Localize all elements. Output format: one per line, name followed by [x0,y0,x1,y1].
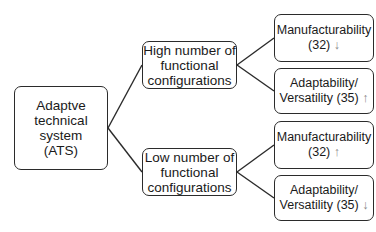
leaf-node-high-manufacturability: Manufacturability (32) ↓ [274,14,374,62]
low-line-2: functional [145,165,234,180]
high-line-1: High number of [143,43,235,58]
arrow-up-icon: ↑ [362,91,368,105]
leaf3-line-2: (32) [308,145,330,159]
branch-node-low: Low number of functional configurations [142,148,237,196]
high-line-3: configurations [143,73,235,88]
connector-root-to-high [108,65,142,128]
root-line-1: Adaptve [34,98,87,113]
root-line-3: system [34,128,87,143]
root-line-2: technical [34,113,87,128]
connector-high-to-leaf2 [237,65,274,91]
connector-high-to-leaf1 [237,38,274,65]
branch-node-high: High number of functional configurations [142,41,237,89]
connector-low-to-leaf4 [237,172,274,198]
leaf3-line-1: Manufacturability [277,130,372,145]
leaf2-line-2: Versatility (35) [280,91,359,105]
leaf1-line-2: (32) [308,38,330,52]
leaf-node-low-manufacturability: Manufacturability (32) ↑ [274,121,374,169]
low-line-1: Low number of [145,150,234,165]
arrow-down-icon: ↓ [362,198,368,212]
low-line-3: configurations [145,180,234,195]
root-node-ats: Adaptve technical system (ATS) [14,86,108,170]
arrow-up-icon: ↑ [334,145,340,159]
leaf-node-high-adaptability: Adaptability/ Versatility (35) ↑ [274,68,374,114]
leaf4-line-1: Adaptability/ [280,183,369,198]
leaf4-line-2: Versatility (35) [280,198,359,212]
arrow-down-icon: ↓ [334,38,340,52]
connector-root-to-low [108,128,142,172]
leaf-node-low-adaptability: Adaptability/ Versatility (35) ↓ [274,175,374,221]
high-line-2: functional [143,58,235,73]
connector-low-to-leaf3 [237,145,274,172]
root-line-4: (ATS) [34,143,87,158]
leaf2-line-1: Adaptability/ [280,76,369,91]
leaf1-line-1: Manufacturability [277,23,372,38]
